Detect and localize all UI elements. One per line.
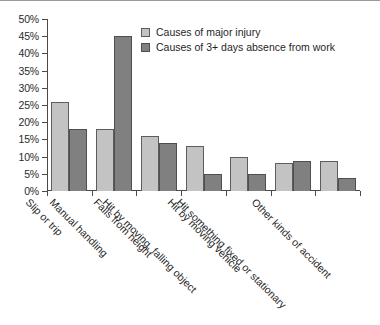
legend-item: Causes of 3+ days absence from work xyxy=(141,41,335,53)
chart-figure: 0%5%10%15%20%25%30%35%40%45%50% Causes o… xyxy=(0,0,380,325)
bar xyxy=(293,161,311,191)
legend-swatch-icon xyxy=(141,43,150,52)
y-axis-tick-label: 40% xyxy=(19,47,39,59)
y-axis-tick-label: 45% xyxy=(19,30,39,42)
y-axis-tick-label: 25% xyxy=(19,99,39,111)
bar xyxy=(114,36,132,191)
bar xyxy=(248,174,266,191)
bar xyxy=(186,146,204,191)
x-axis-labels: Slip or tripManual handlingFalls from he… xyxy=(47,194,360,324)
y-axis-tick-label: 30% xyxy=(19,82,39,94)
y-axis-tick-label: 35% xyxy=(19,65,39,77)
bar xyxy=(204,174,222,191)
bar xyxy=(338,178,356,191)
bar xyxy=(275,163,293,191)
bar xyxy=(230,157,248,191)
y-axis-tick-label: 5% xyxy=(24,168,39,180)
bar xyxy=(159,143,177,191)
bar-group xyxy=(47,19,92,191)
legend-label: Causes of major injury xyxy=(156,26,260,38)
chart-legend: Causes of major injuryCauses of 3+ days … xyxy=(141,26,335,53)
bar xyxy=(51,102,69,191)
legend-label: Causes of 3+ days absence from work xyxy=(156,41,335,53)
x-axis-label: Other kinds of accident xyxy=(249,196,333,280)
bar-group xyxy=(92,19,137,191)
bar xyxy=(69,129,87,191)
legend-item: Causes of major injury xyxy=(141,26,335,38)
bar xyxy=(141,136,159,191)
y-axis-tick-label: 15% xyxy=(19,133,39,145)
x-axis-tick xyxy=(360,191,361,196)
y-axis-tick-label: 20% xyxy=(19,116,39,128)
legend-swatch-icon xyxy=(141,28,150,37)
y-axis-tick-label: 10% xyxy=(19,151,39,163)
y-axis-tick-label: 50% xyxy=(19,13,39,25)
bar xyxy=(320,161,338,191)
bar xyxy=(96,129,114,191)
